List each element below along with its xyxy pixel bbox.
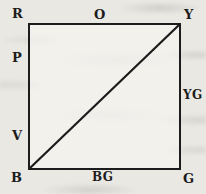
edge-label-yellow-green: YG xyxy=(183,89,203,102)
edge-label-violet: V xyxy=(12,129,23,142)
edge-label-orange: O xyxy=(94,8,106,21)
corner-label-yellow: Y xyxy=(184,8,194,21)
corner-label-green: G xyxy=(183,172,195,185)
diagonal-line-b-to-y xyxy=(28,23,181,170)
edge-label-purple: P xyxy=(12,51,22,64)
scanned-figure: R O Y P YG V B BG G xyxy=(0,0,206,194)
corner-label-red: R xyxy=(12,7,23,20)
corner-label-blue: B xyxy=(11,171,23,184)
edge-label-blue-green: BG xyxy=(92,171,114,184)
